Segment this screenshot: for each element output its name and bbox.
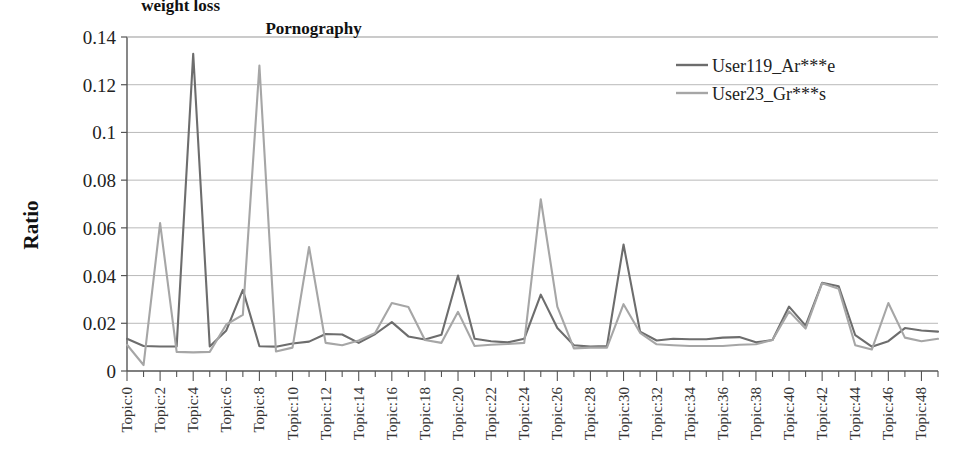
x-axis-tick-label: Topic:38	[748, 387, 764, 440]
x-axis-tick-label: Topic:8	[251, 387, 267, 433]
y-axis-tick-label: 0.14	[83, 27, 117, 48]
x-axis-tick-label: Topic:28	[582, 387, 598, 440]
y-axis-title: Ratio	[19, 201, 43, 250]
x-axis-tick-label: Topic:4	[185, 387, 201, 433]
x-axis-tick-label: Topic:16	[384, 387, 400, 441]
x-axis-tick-label: Topic:6	[218, 387, 234, 433]
x-axis-tick-label: Topic:48	[913, 387, 929, 440]
x-axis-tick-label: Topic:22	[483, 387, 499, 440]
x-axis-tick-label: Topic:18	[417, 387, 433, 440]
y-axis-tick-label: 0	[107, 361, 117, 382]
x-axis-tick-label: Topic:44	[847, 387, 863, 441]
x-axis-tick-label: Topic:36	[715, 387, 731, 441]
x-axis-tick-label: Topic:12	[318, 387, 334, 440]
x-axis-tick-label: Topic:2	[152, 387, 168, 433]
chart-canvas: 00.020.040.060.080.10.120.14 Topic:0Topi…	[0, 0, 979, 472]
x-axis-tick-label: Topic:26	[549, 387, 565, 441]
x-axis-tick-label: Topic:30	[616, 387, 632, 440]
x-axis-tick-label: Topic:10	[285, 387, 301, 440]
y-axis-tick-label: 0.08	[83, 170, 116, 191]
y-axis-tick-label: 0.1	[92, 122, 116, 143]
x-axis-tick-label: Topic:32	[649, 387, 665, 440]
x-axis-tick-label: Topic:40	[781, 387, 797, 440]
x-axis-tick-label: Topic:34	[682, 387, 698, 441]
legend-label-1: User119_Ar***e	[712, 56, 835, 76]
y-axis-tick-label: 0.04	[83, 266, 117, 287]
x-axis-tick-label: Topic:0	[119, 387, 135, 433]
x-axis-tick-label: Topic:46	[880, 387, 896, 441]
y-axis-tick-label: 0.06	[83, 218, 116, 239]
annotation-label: Pornography	[265, 19, 362, 38]
x-axis-tick-label: Topic:42	[814, 387, 830, 440]
ratio-topic-line-chart: 00.020.040.060.080.10.120.14 Topic:0Topi…	[0, 0, 979, 472]
y-axis-tick-label: 0.02	[83, 313, 116, 334]
x-axis-tick-label: Topic:20	[450, 387, 466, 440]
annotation-label: weight loss	[141, 0, 220, 15]
x-axis-tick-label: Topic:24	[516, 387, 532, 441]
y-axis-tick-label: 0.12	[83, 75, 116, 96]
x-axis-tick-label: Topic:14	[351, 387, 367, 441]
legend-label-2: User23_Gr***s	[712, 84, 826, 104]
